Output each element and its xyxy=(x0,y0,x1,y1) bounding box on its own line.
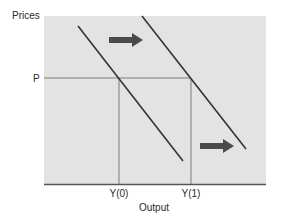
plot-area xyxy=(44,16,266,184)
x-axis-label: Output xyxy=(139,202,169,213)
y-axis-label: Prices xyxy=(12,10,40,21)
price-level-label: P xyxy=(33,73,40,84)
shift-diagram: Prices P Y(0) Y(1) Output xyxy=(0,0,282,224)
output-1-label: Y(1) xyxy=(182,188,201,199)
output-0-label: Y(0) xyxy=(110,188,129,199)
